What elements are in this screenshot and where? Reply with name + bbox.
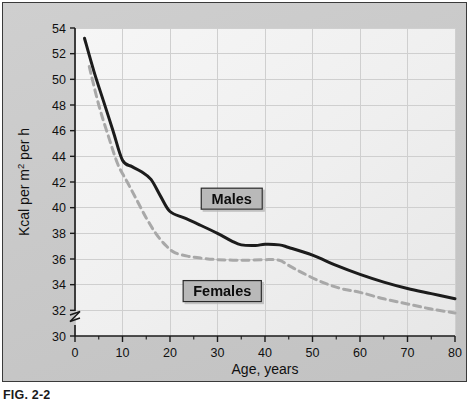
y-axis-tick-label: 52 <box>52 47 66 61</box>
series-label-text: Females <box>193 283 251 299</box>
y-axis-tick-label: 42 <box>52 176 66 190</box>
x-axis-tick-label: 50 <box>306 346 320 360</box>
series-label-males: Males <box>201 188 262 209</box>
y-axis-tick-label: 44 <box>52 150 66 164</box>
y-axis-tick-label: 32 <box>52 304 66 318</box>
x-axis-tick-label: 60 <box>353 346 367 360</box>
x-axis-tick-label: 10 <box>116 346 130 360</box>
y-axis-tick-label: 38 <box>52 227 66 241</box>
y-axis-tick-label: 36 <box>52 253 66 267</box>
series-label-females: Females <box>183 281 261 302</box>
x-axis-tick-label: 20 <box>163 346 177 360</box>
y-axis-title-prefix: Kcal per m <box>16 169 32 236</box>
x-axis-tick-labels: 01020304050607080 <box>72 346 462 360</box>
series-label-text: Males <box>212 191 252 207</box>
x-axis-tick-label: 40 <box>258 346 272 360</box>
y-axis-tick-labels: 30323436384042444648505254 <box>52 22 66 344</box>
y-axis-tick-label: 54 <box>52 22 66 36</box>
x-axis-tick-label: 80 <box>448 346 462 360</box>
y-axis-title-suffix: per h <box>16 128 32 164</box>
x-axis-tick-label: 0 <box>72 346 79 360</box>
figure-caption: FIG. 2-2 <box>3 388 50 403</box>
y-axis-tick-label: 48 <box>52 99 66 113</box>
y-axis-tick-label: 34 <box>52 278 66 292</box>
x-axis-tick-label: 30 <box>211 346 225 360</box>
line-chart: 30323436384042444648505254 0102030405060… <box>3 3 466 381</box>
x-axis-tick-label: 70 <box>401 346 415 360</box>
figure-panel: 30323436384042444648505254 0102030405060… <box>2 2 467 382</box>
y-axis-tick-label: 30 <box>52 330 66 344</box>
figure-root: 30323436384042444648505254 0102030405060… <box>0 0 473 403</box>
y-axis-tick-label: 40 <box>52 201 66 215</box>
y-axis-tick-label: 46 <box>52 124 66 138</box>
y-axis-title: Kcal per m2 per h <box>15 128 33 236</box>
y-axis-tick-label: 50 <box>52 73 66 87</box>
x-axis-ticks <box>75 336 455 342</box>
x-axis-title: Age, years <box>232 361 299 377</box>
